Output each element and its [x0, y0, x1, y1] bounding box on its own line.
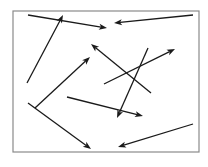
- arrow-shaft: [27, 20, 60, 83]
- arrow-3: [114, 15, 193, 25]
- arrow-shaft: [35, 61, 86, 108]
- arrow-shaft: [119, 48, 148, 113]
- arrow-1: [28, 15, 107, 30]
- arrow-9: [67, 97, 143, 117]
- arrow-shaft: [120, 15, 193, 22]
- arrowhead-icon: [83, 142, 91, 149]
- arrow-6: [117, 48, 148, 118]
- arrow-shaft: [104, 52, 170, 84]
- arrow-shaft: [124, 124, 193, 145]
- arrows-group: [27, 15, 193, 149]
- arrow-4: [91, 44, 151, 93]
- arrow-8: [28, 103, 91, 149]
- arrow-shaft: [67, 97, 137, 115]
- arrow-shaft: [96, 48, 151, 93]
- arrow-diagram: [0, 0, 208, 167]
- arrow-10: [118, 124, 193, 148]
- arrow-shaft: [28, 15, 101, 27]
- arrow-2: [27, 15, 63, 83]
- arrow-shaft: [28, 103, 86, 145]
